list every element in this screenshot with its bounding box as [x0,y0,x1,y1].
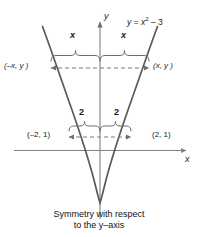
caption-line-1: Symmetry with respect [0,209,198,220]
brace-label-upper-right: x [121,31,126,40]
x-axis-label: x [185,155,190,164]
point-label-left-numeric: (–2, 1) [27,131,50,139]
parabola-plot [0,0,198,237]
brace-lower-left [69,122,100,132]
figure-caption: Symmetry with respect to the y–axis [0,209,198,232]
brace-label-lower-left: 2 [79,108,84,117]
point-label-right-numeric: (2, 1) [152,131,171,139]
symmetry-figure: y x y = x2 – 3 (–x, y ) (x, y ) (–2, 1) … [0,0,198,237]
point-label-right-generic: (x, y ) [153,62,173,70]
brace-lower-right [100,122,131,132]
brace-upper-right [100,51,149,62]
equation-left-side: y = x [127,17,145,27]
equation-right-side: – 3 [149,17,163,27]
caption-line-2: to the y–axis [0,220,198,231]
point-label-left-generic: (–x, y ) [4,62,28,70]
brace-upper-left [51,51,100,62]
brace-label-upper-left: x [70,31,75,40]
brace-label-lower-right: 2 [114,108,119,117]
equation-label: y = x2 – 3 [127,18,163,27]
y-axis-label: y [104,12,109,21]
